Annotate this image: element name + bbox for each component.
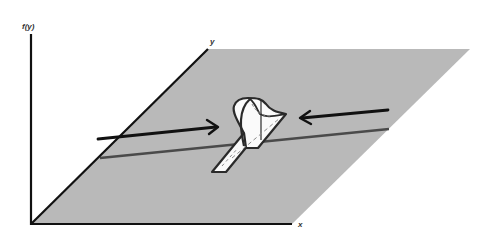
vertical-axis-label: f(y) — [22, 22, 35, 31]
x-axis-label: x — [297, 220, 303, 229]
y-axis-label: y — [209, 37, 215, 46]
diagram-figure: f(y) x y — [0, 0, 495, 238]
